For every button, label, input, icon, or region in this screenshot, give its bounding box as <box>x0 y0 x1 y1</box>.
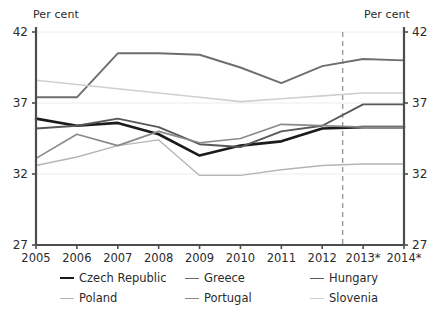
chart-plot-area: 27323742 27323742 2005200620072008200920… <box>0 0 440 265</box>
series-line-slovenia <box>36 80 404 101</box>
legend-item[interactable]: Poland <box>60 288 190 308</box>
legend-item-label: Hungary <box>329 272 378 285</box>
legend-item[interactable]: Czech Republic <box>60 268 190 288</box>
x-tick-label: 2005 <box>21 251 50 265</box>
legend-swatch-line-icon <box>60 277 74 279</box>
legend-item-label: Czech Republic <box>79 272 167 285</box>
y-tick-label-right: 37 <box>412 96 427 110</box>
x-tick-label: 2009 <box>185 251 214 265</box>
legend-item-label: Portugal <box>204 292 252 305</box>
series-line-greece <box>36 53 404 97</box>
y-tick-label-right: 32 <box>412 167 427 181</box>
y-tick-label-right: 42 <box>412 25 427 39</box>
legend-column-2: Greece Portugal <box>185 268 315 308</box>
x-tick-label: 2010 <box>226 251 255 265</box>
legend-item[interactable]: Hungary <box>310 268 440 288</box>
x-axis-ticks: 200520062007200820092010201120122013*201… <box>21 245 421 265</box>
x-tick-label: 2014* <box>386 251 421 265</box>
legend-item[interactable]: Portugal <box>185 288 315 308</box>
legend-item-label: Slovenia <box>329 292 378 305</box>
legend-column-3: Hungary Slovenia <box>310 268 440 308</box>
y-tick-label-left: 32 <box>13 167 28 181</box>
legend-swatch-line-icon <box>310 278 324 279</box>
x-tick-label: 2013* <box>346 251 381 265</box>
y-tick-label-left: 27 <box>13 238 28 252</box>
x-tick-label: 2007 <box>103 251 132 265</box>
y-tick-label-right: 27 <box>412 238 427 252</box>
legend-swatch-line-icon <box>60 298 74 299</box>
axes-group <box>36 27 404 245</box>
legend-item-label: Poland <box>79 292 117 305</box>
legend-swatch-line-icon <box>310 298 324 299</box>
legend-item-label: Greece <box>204 272 245 285</box>
legend-swatch-line-icon <box>185 298 199 299</box>
y-tick-label-left: 37 <box>13 96 28 110</box>
legend-swatch-line-icon <box>185 278 199 279</box>
line-chart-figure: Per cent Per cent 27323742 27323742 2005… <box>0 0 440 309</box>
y-tick-label-left: 42 <box>13 25 28 39</box>
x-tick-label: 2011 <box>267 251 296 265</box>
x-tick-label: 2012 <box>308 251 337 265</box>
x-tick-label: 2006 <box>62 251 91 265</box>
y-axis-left-ticks: 27323742 <box>13 25 36 252</box>
series-lines-group <box>36 53 404 175</box>
legend-item[interactable]: Slovenia <box>310 288 440 308</box>
legend-item[interactable]: Greece <box>185 268 315 288</box>
y-axis-right-ticks: 27323742 <box>404 25 427 252</box>
chart-legend: Czech Republic Poland Greece Portugal Hu… <box>0 268 440 309</box>
x-tick-label: 2008 <box>144 251 173 265</box>
legend-column-1: Czech Republic Poland <box>60 268 190 308</box>
